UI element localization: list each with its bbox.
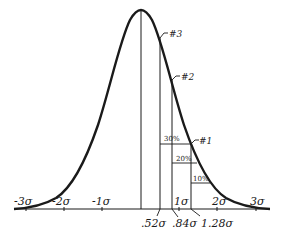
- pct-label-10: 10%: [193, 175, 209, 183]
- cutoff-label-052: .52σ: [141, 217, 166, 230]
- pct-label-20: 20%: [176, 155, 192, 163]
- marker-leaders: [160, 33, 199, 144]
- axis-label-3: 3σ: [250, 195, 265, 208]
- axis-label-neg3: -3σ: [14, 195, 33, 208]
- pct-label-30: 30%: [164, 135, 180, 143]
- bell-curve: [14, 10, 270, 209]
- marker-3: #3: [169, 29, 183, 39]
- marker-1: #1: [199, 136, 212, 146]
- axis-label-neg1: -1σ: [92, 195, 111, 208]
- axis-label-1: 1σ: [174, 195, 189, 208]
- cutoff-label-084: .84σ: [172, 217, 197, 230]
- normal-curve-diagram: #3 #2 #1 30% 20% 10% -3σ -2σ -1σ 1σ 2σ 3…: [0, 0, 282, 240]
- cutoff-label-128: 1.28σ: [201, 217, 233, 230]
- marker-2: #2: [181, 72, 195, 82]
- axis-label-2: 2σ: [211, 195, 227, 208]
- axis-label-neg2: -2σ: [52, 195, 71, 208]
